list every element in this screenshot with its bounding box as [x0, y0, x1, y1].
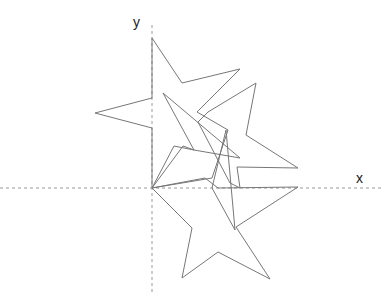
star-top: [95, 38, 240, 188]
star-upright-bottom: [152, 178, 298, 279]
star-diagram: [0, 0, 384, 294]
x-axis-label: x: [356, 170, 363, 186]
diagram-canvas: y x: [0, 0, 384, 294]
y-axis-label: y: [133, 14, 140, 30]
